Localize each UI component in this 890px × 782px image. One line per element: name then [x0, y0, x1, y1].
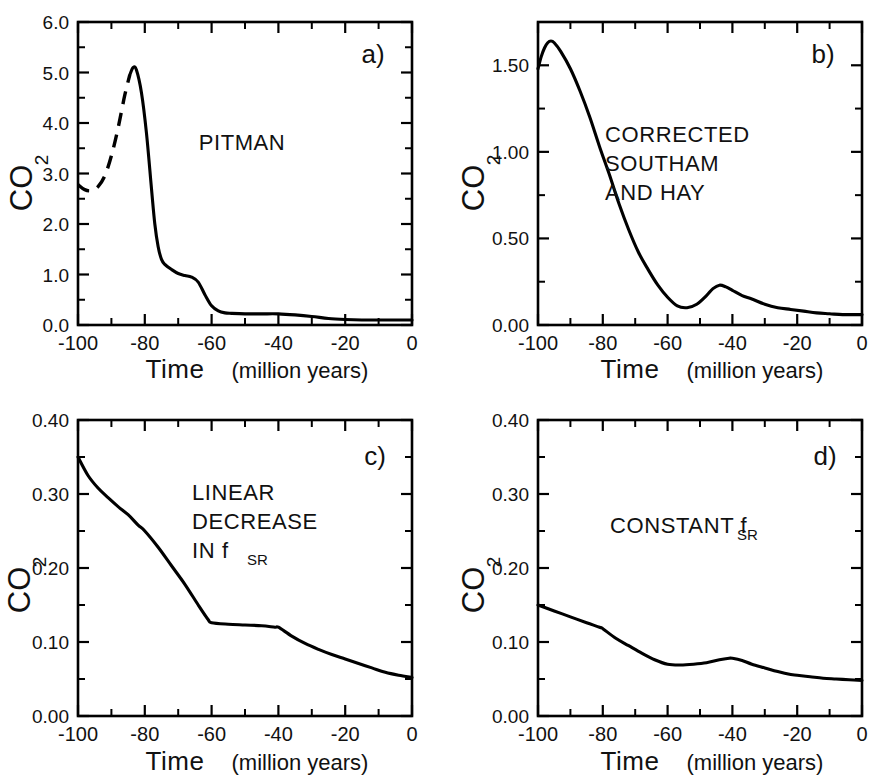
y-tick-label: 2.0	[43, 214, 69, 235]
y-tick-label: 5.0	[43, 63, 69, 84]
panel-b-xlabel-main: Time	[601, 354, 660, 384]
panel-d-ytick-labels: 0.000.100.200.300.40	[492, 410, 529, 727]
x-tick-label: -100	[58, 723, 98, 745]
y-tick-label: 4.0	[43, 113, 69, 134]
panel-c-ylabel-subscript: 2	[29, 557, 50, 568]
panel-d-ylabel-text: CO	[456, 567, 491, 614]
x-tick-label: -20	[783, 332, 812, 354]
panel-a-ylabel-subscript: 2	[31, 155, 52, 166]
y-tick-label: 0.10	[32, 632, 69, 653]
x-tick-label: -40	[718, 332, 747, 354]
x-tick-label: -40	[264, 723, 293, 745]
x-tick-label: -100	[518, 723, 558, 745]
panel-a-curves	[78, 67, 412, 320]
panel-c-annotation-line-2: DECREASE	[192, 509, 318, 534]
panel-c-annotation-line-3-group: IN f SR	[192, 538, 268, 568]
y-tick-label: 1.0	[43, 265, 69, 286]
y-tick-label: 0.30	[32, 484, 69, 505]
panel-d-curves	[538, 605, 862, 680]
panel-d: 0.000.100.200.300.40 -100-80-60-40-200 d…	[450, 390, 890, 782]
panel-a-xlabel-paren: (million years)	[232, 358, 369, 383]
panel-a-svg: 0.01.02.03.04.05.06.0 -100-80-60-40-200 …	[0, 0, 440, 392]
y-tick-label: 6.0	[43, 12, 69, 33]
panel-d-annotation-line-1: CONSTANT f	[610, 513, 747, 538]
y-tick-label: 0.30	[492, 484, 529, 505]
panel-a-xlabel: Time (million years)	[146, 354, 369, 384]
panel-c-ticks	[78, 420, 412, 716]
panel-c-ytick-labels: 0.000.100.200.300.40	[32, 410, 69, 727]
y-tick-label: 0.10	[492, 632, 529, 653]
panel-d-svg: 0.000.100.200.300.40 -100-80-60-40-200 d…	[450, 390, 890, 782]
x-tick-label: -60	[197, 332, 226, 354]
panel-d-letter: d)	[813, 441, 836, 471]
panel-b-svg: 0.000.501.001.50 -100-80-60-40-200 b) CO…	[450, 0, 890, 392]
panel-b-ylabel-subscript: 2	[483, 155, 504, 166]
panel-d-annotation-subscript: SR	[737, 526, 758, 543]
data-curve	[538, 605, 862, 680]
x-tick-label: -20	[331, 332, 360, 354]
y-tick-label: 0.40	[32, 410, 69, 431]
x-tick-label: -80	[588, 723, 617, 745]
y-tick-label: 0.40	[492, 410, 529, 431]
x-tick-label: 0	[856, 332, 867, 354]
x-tick-label: 0	[406, 332, 417, 354]
panel-b-ylabel: CO 2	[456, 155, 504, 212]
x-tick-label: -20	[783, 723, 812, 745]
x-tick-label: 0	[406, 723, 417, 745]
panel-c-xlabel: Time (million years)	[146, 746, 369, 776]
panel-c-plot-area	[78, 420, 412, 716]
x-tick-label: -100	[518, 332, 558, 354]
panel-c-annotation-line-3: IN f	[192, 538, 229, 563]
panel-c-letter: c)	[364, 441, 386, 471]
panel-d-ylabel: CO 2	[456, 557, 504, 614]
panel-b-letter: b)	[811, 39, 834, 69]
y-tick-label: 0.50	[492, 228, 529, 249]
panel-d-xlabel-paren: (million years)	[687, 750, 824, 775]
x-tick-label: -40	[264, 332, 293, 354]
panel-d-xtick-labels: -100-80-60-40-200	[518, 723, 868, 745]
panel-c-annotation-line-1: LINEAR	[192, 480, 275, 505]
panel-b: 0.000.501.001.50 -100-80-60-40-200 b) CO…	[450, 0, 890, 392]
panel-c-xtick-labels: -100-80-60-40-200	[58, 723, 418, 745]
panel-a: 0.01.02.03.04.05.06.0 -100-80-60-40-200 …	[0, 0, 440, 392]
data-curve	[538, 41, 862, 315]
x-tick-label: -20	[331, 723, 360, 745]
x-tick-label: -60	[197, 723, 226, 745]
x-tick-label: 0	[856, 723, 867, 745]
panel-a-letter: a)	[361, 39, 384, 69]
panel-a-xtick-labels: -100-80-60-40-200	[58, 332, 418, 354]
x-tick-label: -60	[653, 332, 682, 354]
panel-b-annotation-line-3: AND HAY	[605, 180, 705, 205]
y-tick-label: 3.0	[43, 164, 69, 185]
panel-a-ytick-labels: 0.01.02.03.04.05.06.0	[43, 12, 69, 336]
panel-b-annotation-line-2: SOUTHAM	[605, 151, 719, 176]
panel-a-annotation-line-1: PITMAN	[199, 130, 286, 155]
panel-a-ylabel-text: CO	[4, 165, 39, 212]
panel-b-xlabel-paren: (million years)	[687, 358, 824, 383]
panel-b-xtick-labels: -100-80-60-40-200	[518, 332, 868, 354]
data-curve	[130, 67, 412, 320]
panel-c-xlabel-main: Time	[146, 746, 205, 776]
y-tick-label: 1.50	[492, 55, 529, 76]
x-tick-label: -60	[653, 723, 682, 745]
panel-a-xlabel-main: Time	[146, 354, 205, 384]
panel-b-annotation-line-1: CORRECTED	[605, 122, 750, 147]
panel-c-svg: 0.000.100.200.300.40 -100-80-60-40-200 c…	[0, 390, 440, 782]
panel-d-xlabel-main: Time	[601, 746, 660, 776]
panel-c-frame	[78, 420, 412, 716]
x-tick-label: -80	[130, 723, 159, 745]
panel-c: 0.000.100.200.300.40 -100-80-60-40-200 c…	[0, 390, 440, 782]
panel-b-ylabel-text: CO	[456, 165, 491, 212]
x-tick-label: -40	[718, 723, 747, 745]
panel-d-xlabel: Time (million years)	[601, 746, 824, 776]
panel-d-ylabel-subscript: 2	[483, 557, 504, 568]
figure-canvas: 0.01.02.03.04.05.06.0 -100-80-60-40-200 …	[0, 0, 890, 782]
x-tick-label: -80	[130, 332, 159, 354]
x-tick-label: -100	[58, 332, 98, 354]
x-tick-label: -80	[588, 332, 617, 354]
panel-c-ylabel-text: CO	[2, 567, 37, 614]
panel-b-xlabel: Time (million years)	[601, 354, 824, 384]
panel-c-xlabel-paren: (million years)	[232, 750, 369, 775]
panel-d-annotation-group: CONSTANT f SR	[610, 513, 758, 543]
panel-c-ylabel: CO 2	[2, 557, 50, 614]
